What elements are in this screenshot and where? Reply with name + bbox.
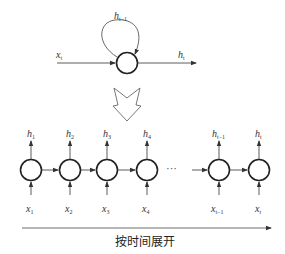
h-label: h3: [103, 128, 111, 140]
x-label: xt−1: [210, 203, 224, 215]
unrolled-rnn: ··· h1 x1 h2 x2 h3 x3: [21, 128, 270, 215]
rnn-diagram: xt ht ht−1 ··· h1 x1 h2 x2: [0, 0, 285, 254]
cell-2: h2 x2: [60, 128, 81, 215]
cell-1: h1 x1: [21, 128, 42, 215]
unfold-down-arrow-icon: [113, 88, 141, 121]
cell-t: ht xt: [249, 128, 270, 215]
ellipsis: ···: [166, 162, 177, 174]
loop-label: ht−1: [114, 10, 127, 22]
h-label: h2: [66, 128, 74, 140]
x-label: x1: [25, 203, 33, 215]
x-label: xt: [254, 203, 261, 215]
recurrent-loop-arrow: [102, 20, 139, 57]
folded-rnn: xt ht ht−1: [55, 10, 196, 74]
cell-3: h3 x3: [97, 128, 118, 215]
folded-input-label: xt: [55, 49, 62, 61]
timeline-label: 按时间展开: [115, 235, 175, 249]
h-label: ht: [255, 128, 262, 140]
h-label: h4: [143, 128, 151, 140]
folded-output-label: ht: [178, 49, 185, 61]
folded-cell: [117, 53, 138, 74]
x-label: x3: [101, 203, 109, 215]
x-label: x2: [64, 203, 72, 215]
cell-t-minus-1: ht−1 xt−1: [209, 128, 230, 215]
h-label: ht−1: [212, 128, 225, 140]
cell-4: h4 x4: [137, 128, 158, 215]
h-label: h1: [27, 128, 35, 140]
x-label: x4: [141, 203, 149, 215]
